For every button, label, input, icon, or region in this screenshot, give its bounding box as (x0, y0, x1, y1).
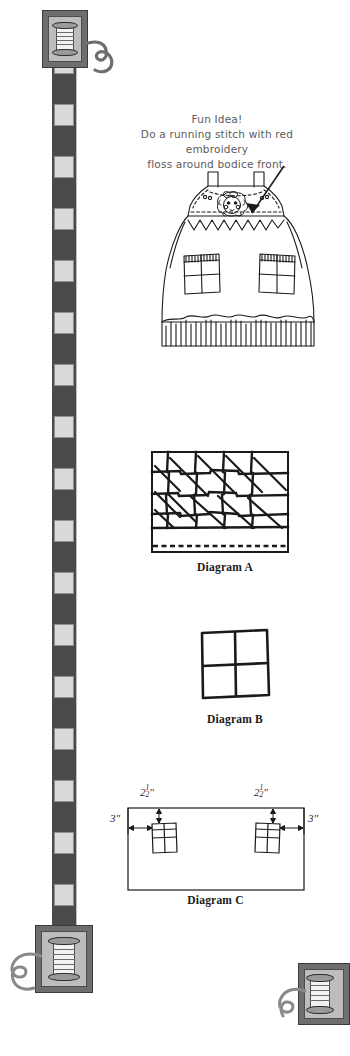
ribbon-square (54, 728, 74, 750)
diagram-b-figure (197, 625, 273, 703)
ribbon-square (54, 260, 74, 282)
spool-cap-bottom (52, 49, 78, 56)
ribbon-square (54, 104, 74, 126)
thread-spool-icon (48, 937, 80, 981)
diagram-a-figure (150, 450, 290, 554)
diagram-c-dim-right: 3" (308, 812, 318, 824)
note-line-1: Fun Idea! (108, 112, 326, 127)
diagram-b-caption: Diagram B (180, 713, 290, 725)
thread-spool-icon (52, 22, 78, 56)
ribbon-square (54, 572, 74, 594)
ribbon-square (54, 676, 74, 698)
thread-curl-icon-top (84, 36, 118, 74)
spool-cap-top (52, 22, 78, 29)
spool-cap-bottom (306, 1006, 334, 1014)
spool-cap-top (48, 937, 80, 945)
ribbon-square (54, 364, 74, 386)
ribbon-square (54, 884, 74, 906)
diagram-b-block: Diagram B (180, 625, 290, 725)
ribbon-square (54, 780, 74, 802)
pinafore-dress-drawing (160, 170, 320, 365)
ribbon-square (54, 208, 74, 230)
spool-bottom-left (35, 925, 93, 993)
diagram-c-dim-top-right: 212" (254, 784, 268, 798)
ribbon-square (54, 468, 74, 490)
spool-cap-bottom (48, 973, 80, 981)
thread-spool-icon (306, 974, 334, 1014)
diagram-c-dim-top-left: 212" (140, 784, 154, 798)
note-line-2: Do a running stitch with red embroidery (108, 127, 326, 157)
checkered-ribbon (52, 40, 76, 940)
diagram-c-caption: Diagram C (102, 894, 329, 906)
ribbon-square (54, 312, 74, 334)
spool-top-left (42, 10, 88, 68)
diagram-c-dim-left: 3" (110, 812, 120, 824)
ribbon-square (54, 520, 74, 542)
spool-cap-top (306, 974, 334, 982)
spool-frame-inner (41, 931, 87, 987)
fun-idea-note: Fun Idea! Do a running stitch with red e… (108, 112, 326, 172)
diagram-a-block: Diagram A (150, 450, 300, 573)
diagram-a-caption: Diagram A (150, 561, 300, 573)
spool-bottom-right (298, 963, 350, 1025)
diagram-c-block: 212" 212" 3" 3" Diagram C (108, 786, 329, 906)
spool-frame-inner (304, 969, 344, 1019)
ribbon-square (54, 624, 74, 646)
ribbon-square (54, 156, 74, 178)
pinafore-dress-illustration (160, 170, 320, 365)
ribbon-square (54, 416, 74, 438)
spool-frame-inner (48, 16, 82, 62)
diagram-c-figure (108, 786, 329, 891)
ribbon-square (54, 832, 74, 854)
